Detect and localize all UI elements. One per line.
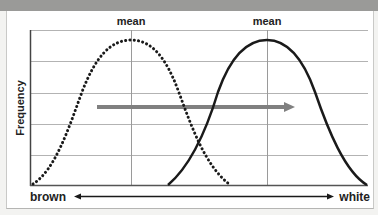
- shift-arrow-icon: [97, 102, 295, 112]
- y-axis-label: Frequency: [14, 79, 26, 136]
- color-scale-double-arrow-icon: [74, 194, 334, 200]
- frequency-diagram: mean mean Frequency brown white: [0, 0, 378, 215]
- x-axis-left-label: brown: [30, 190, 66, 204]
- mean-label-left: mean: [117, 15, 146, 27]
- x-axis-right-label: white: [338, 190, 370, 204]
- mean-label-right: mean: [253, 15, 282, 27]
